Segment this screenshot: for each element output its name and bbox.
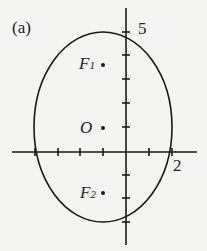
- focus1-label: F1: [79, 55, 95, 72]
- origin-label: O: [80, 119, 92, 136]
- ellipse-diagram: [0, 0, 207, 251]
- focus1-point: [101, 63, 105, 67]
- x-tick-label-2: 2: [173, 157, 182, 174]
- y-tick-label-5: 5: [138, 20, 147, 37]
- focus2-label: F2: [80, 184, 96, 201]
- focus2-point: [101, 191, 105, 195]
- panel-label: (a): [12, 19, 31, 36]
- origin-point: [101, 126, 105, 130]
